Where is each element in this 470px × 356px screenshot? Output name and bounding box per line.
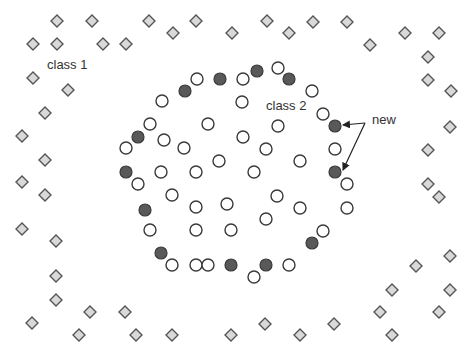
class2-open-circle-icon	[283, 259, 295, 271]
class2-open-circle-icon	[221, 198, 233, 210]
new-filled-circle-icon	[329, 120, 341, 132]
class1-diamond-icon	[283, 27, 295, 39]
class2-open-circle-icon	[190, 259, 202, 271]
class1-diamond-icon	[73, 329, 85, 341]
class1-diamond-icon	[50, 270, 62, 282]
class1-diamond-icon	[16, 223, 28, 235]
class1-diamond-icon	[26, 317, 38, 329]
class2-open-circle-icon	[158, 134, 170, 146]
class2-open-circle-icon	[178, 142, 190, 154]
class2-open-circle-icon	[341, 202, 353, 214]
new-filled-circle-icon	[225, 259, 237, 271]
class1-diamond-icon	[226, 27, 238, 39]
class2-open-circle-icon	[271, 190, 283, 202]
class1-diamond-icon	[119, 306, 131, 318]
new-label: new	[372, 112, 396, 127]
class1-diamond-icon	[261, 15, 273, 27]
class1-diamond-icon	[27, 38, 39, 50]
new-filled-circle-icon	[260, 259, 272, 271]
class1-diamond-icon	[341, 16, 353, 28]
class2-open-circle-icon	[202, 118, 214, 130]
class1-diamond-icon	[374, 306, 386, 318]
new-filled-circle-icon	[179, 85, 191, 97]
class2-open-circle-icon	[213, 155, 225, 167]
class1-diamond-icon	[259, 318, 271, 330]
class2-open-circle-icon	[237, 73, 249, 85]
class1-diamond-icon	[422, 178, 434, 190]
class1-diamond-icon	[167, 27, 179, 39]
class2-open-circle-icon	[317, 225, 329, 237]
class2-label: class 2	[266, 98, 306, 113]
class2-open-circle-markers	[120, 62, 353, 283]
class1-diamond-icon	[399, 27, 411, 39]
new-filled-circle-icon	[155, 247, 167, 259]
new-filled-circle-icon	[283, 73, 295, 85]
class1-diamond-icon	[422, 74, 434, 86]
class1-diamond-icon	[16, 176, 28, 188]
class2-open-circle-icon	[166, 189, 178, 201]
class1-diamond-icon	[39, 154, 51, 166]
new-filled-circle-icon	[120, 166, 132, 178]
class1-diamond-icon	[84, 306, 96, 318]
class2-open-circle-icon	[294, 155, 306, 167]
class1-diamond-icon	[328, 318, 340, 330]
arrow-icon	[343, 123, 365, 125]
class2-open-circle-icon	[190, 201, 202, 213]
class1-diamond-icon	[422, 51, 434, 63]
class1-diamond-icon	[444, 121, 456, 133]
class2-open-circle-icon	[225, 224, 237, 236]
class2-open-circle-icon	[132, 178, 144, 190]
class1-diamond-icon	[130, 329, 142, 341]
class1-diamond-icon	[433, 306, 445, 318]
class1-diamond-icon	[433, 191, 445, 203]
class1-diamond-icon	[62, 84, 74, 96]
class1-label: class 1	[47, 57, 87, 72]
new-filled-circle-icon	[306, 237, 318, 249]
class1-diamond-icon	[444, 250, 456, 262]
class2-open-circle-icon	[260, 143, 272, 155]
class1-diamond-icon	[386, 329, 398, 341]
class1-diamond-icon	[16, 130, 28, 142]
class1-diamond-icon	[120, 38, 132, 50]
class2-open-circle-icon	[190, 224, 202, 236]
class2-open-circle-icon	[272, 120, 284, 132]
class1-diamond-icon	[225, 329, 237, 341]
class2-open-circle-icon	[248, 166, 260, 178]
class1-diamond-icon	[39, 107, 51, 119]
class1-diamond-icon	[51, 38, 63, 50]
class2-open-circle-icon	[306, 85, 318, 97]
class2-open-circle-icon	[166, 259, 178, 271]
arrow-icon	[343, 123, 365, 170]
class1-diamond-icon	[444, 284, 456, 296]
class1-diamond-icon	[294, 329, 306, 341]
class2-open-circle-icon	[190, 166, 202, 178]
class2-open-circle-icon	[202, 259, 214, 271]
class1-diamond-icon	[143, 15, 155, 27]
new-filled-circle-icon	[214, 73, 226, 85]
class1-diamond-icon	[410, 260, 422, 272]
class2-open-circle-icon	[144, 118, 156, 130]
class1-diamond-icon	[433, 27, 445, 39]
class1-diamond-icon	[307, 16, 319, 28]
new-filled-circle-icon	[132, 131, 144, 143]
class2-open-circle-icon	[156, 95, 168, 107]
class2-open-circle-icon	[155, 166, 167, 178]
class1-diamond-icon	[39, 189, 51, 201]
class2-open-circle-icon	[236, 96, 248, 108]
class1-diamond-icon	[422, 144, 434, 156]
class2-open-circle-icon	[317, 108, 329, 120]
class1-diamond-icon	[50, 235, 62, 247]
class2-open-circle-icon	[120, 142, 132, 154]
class1-diamond-icon	[445, 85, 457, 97]
class1-diamond-icon	[86, 15, 98, 27]
new-filled-circle-icon	[139, 204, 151, 216]
class1-diamond-icon	[51, 15, 63, 27]
class2-open-circle-icon	[260, 213, 272, 225]
new-filled-circle-icon	[251, 65, 263, 77]
class2-open-circle-icon	[341, 178, 353, 190]
class2-open-circle-icon	[294, 202, 306, 214]
class1-diamond-icon	[364, 39, 376, 51]
class1-diamond-icon	[50, 294, 62, 306]
new-filled-circle-icon	[329, 166, 341, 178]
class2-open-circle-icon	[248, 271, 260, 283]
